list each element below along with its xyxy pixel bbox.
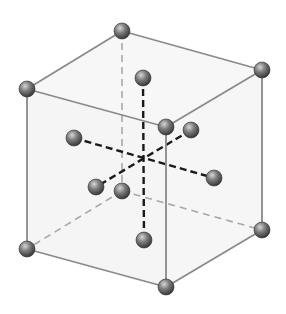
face-atom-front bbox=[88, 179, 104, 195]
cubic-unit-cell-svg bbox=[0, 0, 286, 314]
corner-atom-front-top-right bbox=[158, 119, 174, 135]
corner-atom-back-top-right bbox=[254, 62, 270, 78]
corner-atom-back-bottom-right bbox=[254, 222, 270, 238]
corner-atom-front-bottom-right bbox=[158, 279, 174, 295]
corner-atom-front-bottom-left bbox=[19, 241, 35, 257]
face-atom-right bbox=[206, 170, 222, 186]
unit-cell-diagram bbox=[0, 0, 286, 314]
corner-atom-back-top-left bbox=[114, 23, 130, 39]
corner-atom-front-top-left bbox=[19, 81, 35, 97]
corner-atom-back-bottom-left bbox=[114, 183, 130, 199]
face-atom-back bbox=[183, 122, 199, 138]
face-atom-top bbox=[135, 70, 151, 86]
face-atom-left bbox=[66, 130, 82, 146]
face-atom-bottom bbox=[136, 232, 152, 248]
